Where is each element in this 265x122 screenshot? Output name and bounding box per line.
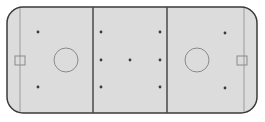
faceoff-dot (129, 59, 132, 62)
hockey-rink-diagram (0, 0, 265, 122)
faceoff-dot (100, 31, 103, 34)
faceoff-dot (159, 86, 162, 89)
faceoff-dot (224, 32, 227, 35)
rink-ice-surface (7, 7, 257, 113)
rink-svg (0, 0, 265, 122)
faceoff-dot (159, 31, 162, 34)
faceoff-dot (224, 87, 227, 90)
faceoff-dot (100, 59, 103, 62)
faceoff-dot (37, 86, 40, 89)
faceoff-dot (159, 59, 162, 62)
faceoff-dot (100, 86, 103, 89)
faceoff-dot (37, 31, 40, 34)
